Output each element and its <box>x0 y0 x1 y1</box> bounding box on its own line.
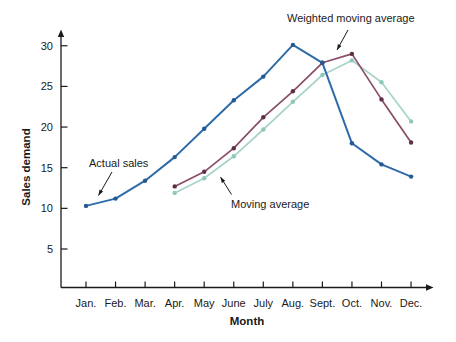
data-point-moving-average <box>261 127 265 131</box>
y-tick-label: 30 <box>41 40 53 52</box>
y-axis-arrow-icon <box>58 30 64 38</box>
y-axis-label: Sales demand <box>20 128 32 205</box>
annotations-group: Weighted moving averageActual salesMovin… <box>89 12 415 210</box>
data-point-actual-sales <box>113 196 117 200</box>
axes-group: 51015202530Jan.Feb.Mar.Apr.MayJuneJulyAu… <box>41 30 434 309</box>
x-tick-label-july: July <box>254 297 274 309</box>
data-point-actual-sales <box>261 74 265 78</box>
x-tick-label-mar: Mar. <box>134 297 155 309</box>
data-point-weighted-moving-average <box>350 52 354 56</box>
data-point-actual-sales <box>143 179 147 183</box>
x-tick-label-oct: Oct. <box>342 297 362 309</box>
annotation-arrowhead-icon <box>337 44 342 50</box>
data-point-weighted-moving-average <box>379 97 383 101</box>
data-point-moving-average <box>320 73 324 77</box>
annotation-arrowhead-icon <box>221 177 226 183</box>
data-point-moving-average <box>350 58 354 62</box>
sales-demand-chart: 51015202530Jan.Feb.Mar.Apr.MayJuneJulyAu… <box>0 0 456 342</box>
data-point-actual-sales <box>202 127 206 131</box>
data-point-actual-sales <box>379 162 383 166</box>
y-tick-label: 25 <box>41 80 53 92</box>
y-tick-label: 10 <box>41 202 53 214</box>
data-point-weighted-moving-average <box>409 140 413 144</box>
x-tick-label-jan: Jan. <box>76 297 97 309</box>
x-tick-label-sept: Sept. <box>310 297 336 309</box>
x-axis-label: Month <box>230 315 264 327</box>
x-tick-label-june: June <box>222 297 246 309</box>
series-line-weighted-moving-average <box>175 54 411 187</box>
data-point-moving-average <box>232 154 236 158</box>
annotation-moving-average: Moving average <box>231 198 309 210</box>
x-tick-label-nov: Nov. <box>371 297 393 309</box>
data-point-moving-average <box>173 191 177 195</box>
data-point-weighted-moving-average <box>232 146 236 150</box>
y-tick-label: 5 <box>47 243 53 255</box>
chart-figure: 51015202530Jan.Feb.Mar.Apr.MayJuneJulyAu… <box>0 0 456 342</box>
y-tick-label: 20 <box>41 121 53 133</box>
data-point-actual-sales <box>320 61 324 65</box>
x-tick-label-may: May <box>194 297 215 309</box>
x-tick-label-dec: Dec. <box>400 297 423 309</box>
annotation-weighted-moving-average: Weighted moving average <box>287 12 415 24</box>
annotation-actual-sales: Actual sales <box>89 157 149 169</box>
x-axis-arrow-icon <box>426 284 434 290</box>
data-point-weighted-moving-average <box>173 184 177 188</box>
x-tick-label-feb: Feb. <box>105 297 127 309</box>
x-tick-label-apr: Apr. <box>165 297 185 309</box>
data-point-moving-average <box>202 176 206 180</box>
data-point-actual-sales <box>409 174 413 178</box>
x-tick-label-aug: Aug. <box>282 297 305 309</box>
data-point-actual-sales <box>291 43 295 47</box>
data-point-moving-average <box>379 80 383 84</box>
data-point-actual-sales <box>350 141 354 145</box>
data-point-weighted-moving-average <box>261 115 265 119</box>
data-point-moving-average <box>291 100 295 104</box>
series-line-moving-average <box>175 60 411 193</box>
data-point-weighted-moving-average <box>291 89 295 93</box>
y-tick-label: 15 <box>41 162 53 174</box>
data-point-moving-average <box>409 119 413 123</box>
data-point-weighted-moving-average <box>202 170 206 174</box>
data-point-actual-sales <box>84 204 88 208</box>
annotation-arrowhead-icon <box>99 190 104 196</box>
data-point-actual-sales <box>232 98 236 102</box>
data-point-actual-sales <box>173 155 177 159</box>
series-group <box>84 43 414 208</box>
